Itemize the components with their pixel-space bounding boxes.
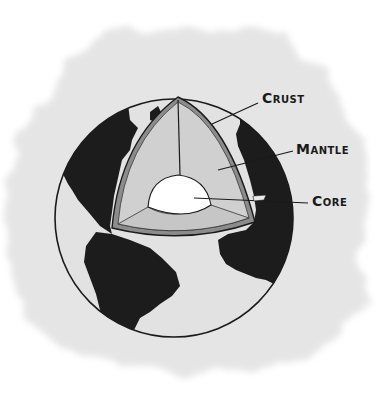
label-core: Core: [312, 194, 347, 208]
earth-layers-diagram: Crust Mantle Core: [0, 0, 376, 397]
crust-notch: [253, 195, 266, 201]
label-crust: Crust: [262, 91, 305, 105]
label-mantle: Mantle: [296, 142, 349, 156]
